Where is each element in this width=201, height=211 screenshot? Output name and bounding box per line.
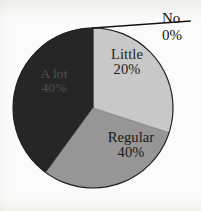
pie-chart-figure: No 0% Little 20% Regular 40% A lot 40% [0,0,201,211]
pie-label-little-value: 20% [96,62,158,77]
pie-label-a-lot-value: 40% [24,81,84,95]
pie-label-no-name: No [162,10,201,27]
pie-label-regular-value: 40% [92,145,170,160]
pie-label-no-value: 0% [162,27,201,44]
pie-label-a-lot-name: A lot [24,67,84,81]
pie-label-regular-name: Regular [92,130,170,145]
pie-label-no: No 0% [162,10,201,43]
pie-label-a-lot: A lot 40% [24,67,84,96]
pie-label-little-name: Little [96,47,158,62]
pie-label-regular: Regular 40% [92,130,170,161]
pie-label-little: Little 20% [96,47,158,78]
